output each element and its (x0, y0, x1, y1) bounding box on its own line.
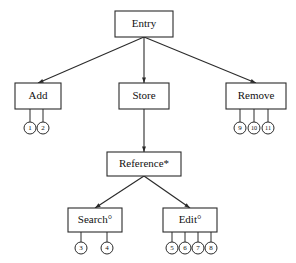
leaf-label: 4 (105, 244, 109, 252)
leaf-node-11: 11 (262, 109, 274, 134)
edge-line (144, 37, 256, 83)
leaf-label: 5 (170, 244, 174, 252)
edge-line (144, 176, 190, 208)
leaf-node-9: 9 (234, 109, 246, 134)
tree-diagram: 1291011345678EntryAddStoreRemoveReferenc… (0, 0, 296, 263)
leaf-node-7: 7 (192, 232, 204, 254)
edge-reference-to-edit (144, 176, 190, 208)
leaf-label: 10 (251, 124, 257, 131)
leaf-node-2: 2 (37, 109, 49, 134)
arrowhead-icon (95, 203, 101, 208)
node-search[interactable]: Search° (68, 208, 122, 232)
node-label: Store (132, 89, 155, 101)
arrowhead-icon (184, 203, 190, 208)
leaf-node-5: 5 (166, 232, 178, 254)
leaf-label: 11 (265, 124, 271, 131)
arrowhead-icon (142, 78, 146, 84)
leaf-label: 8 (209, 244, 213, 252)
leaf-layer: 1291011345678 (24, 109, 274, 254)
leaf-node-1: 1 (24, 109, 36, 134)
leaf-label: 2 (41, 124, 45, 132)
arrowhead-icon (38, 79, 44, 83)
leaf-node-3: 3 (75, 232, 87, 254)
edge-entry-to-remove (144, 37, 256, 83)
edge-line (38, 37, 144, 83)
edge-layer (38, 37, 256, 208)
node-label: Edit° (179, 213, 202, 225)
edge-store-to-reference (142, 109, 146, 152)
leaf-label: 1 (28, 124, 32, 132)
node-label: Reference* (119, 157, 169, 169)
node-label: Add (29, 89, 48, 101)
edge-reference-to-search (95, 176, 144, 208)
arrowhead-icon (250, 79, 256, 83)
node-label: Remove (238, 89, 275, 101)
tree-diagram-canvas: 1291011345678EntryAddStoreRemoveReferenc… (0, 0, 296, 263)
edge-entry-to-add (38, 37, 144, 83)
arrowhead-icon (142, 147, 146, 153)
leaf-label: 9 (238, 124, 242, 132)
edge-line (95, 176, 144, 208)
node-label: Search° (78, 213, 112, 225)
node-store[interactable]: Store (119, 83, 169, 109)
node-label: Entry (132, 17, 157, 29)
leaf-node-10: 10 (248, 109, 260, 134)
leaf-label: 7 (196, 244, 200, 252)
leaf-node-4: 4 (101, 232, 113, 254)
node-add[interactable]: Add (15, 83, 61, 109)
node-reference[interactable]: Reference* (107, 152, 181, 176)
leaf-node-6: 6 (179, 232, 191, 254)
node-entry[interactable]: Entry (115, 11, 173, 37)
leaf-node-8: 8 (205, 232, 217, 254)
node-layer: EntryAddStoreRemoveReference*Search°Edit… (15, 11, 286, 232)
edge-entry-to-store (142, 37, 146, 83)
node-remove[interactable]: Remove (226, 83, 286, 109)
leaf-label: 6 (183, 244, 187, 252)
node-edit[interactable]: Edit° (163, 208, 217, 232)
leaf-label: 3 (79, 244, 83, 252)
